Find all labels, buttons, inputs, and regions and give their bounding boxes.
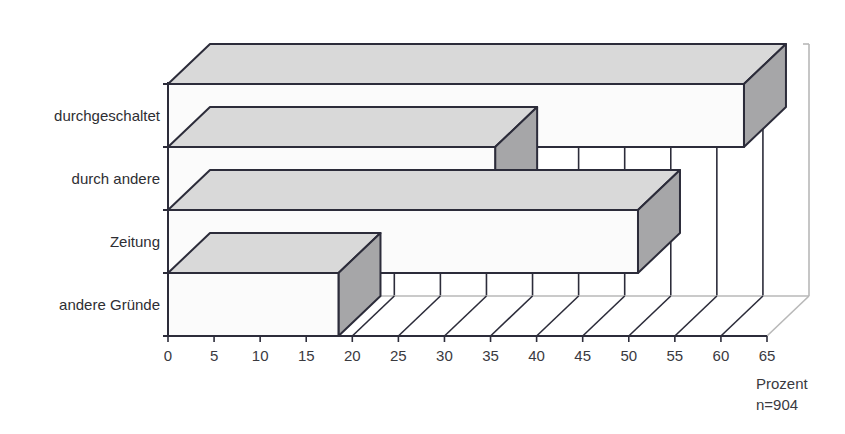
x-tick-label: 20 bbox=[344, 347, 361, 364]
floor-gridline bbox=[537, 296, 579, 336]
bar-series bbox=[168, 44, 786, 336]
x-tick-label: 50 bbox=[620, 347, 637, 364]
x-tick-label: 15 bbox=[298, 347, 315, 364]
category-label: Zeitung bbox=[110, 233, 160, 250]
x-tick-label: 0 bbox=[164, 347, 172, 364]
x-tick-label: 25 bbox=[390, 347, 407, 364]
x-tick-label: 30 bbox=[436, 347, 453, 364]
floor-gridline bbox=[675, 296, 717, 336]
bar-front-face bbox=[168, 273, 338, 336]
x-tick-label: 45 bbox=[574, 347, 591, 364]
floor-gridline bbox=[583, 296, 625, 336]
x-tick-label: 60 bbox=[713, 347, 730, 364]
x-axis-title: Prozent bbox=[756, 375, 809, 392]
bar-top-face bbox=[168, 44, 786, 84]
floor-gridline bbox=[398, 296, 440, 336]
floor-gridline bbox=[491, 296, 533, 336]
category-label: andere Gründe bbox=[59, 296, 160, 313]
floor-gridline bbox=[629, 296, 671, 336]
category-labels: durchgeschaltetdurch andereZeitungandere… bbox=[54, 107, 161, 313]
floor-gridline bbox=[444, 296, 486, 336]
x-tick-label: 40 bbox=[528, 347, 545, 364]
category-label: durchgeschaltet bbox=[54, 107, 161, 124]
bar-top-face bbox=[168, 107, 537, 147]
x-tick-label: 65 bbox=[759, 347, 776, 364]
bar-top-face bbox=[168, 170, 680, 210]
x-tick-label: 10 bbox=[252, 347, 269, 364]
x-tick-label: 5 bbox=[210, 347, 218, 364]
floor-gridline bbox=[767, 296, 809, 336]
bar bbox=[168, 233, 380, 336]
x-tick-label: 55 bbox=[667, 347, 684, 364]
floor-gridline bbox=[721, 296, 763, 336]
x-tick-label: 35 bbox=[482, 347, 499, 364]
sample-size-label: n=904 bbox=[756, 396, 798, 413]
category-label: durch andere bbox=[72, 170, 160, 187]
bar-chart: 05101520253035404550556065 durchgeschalt… bbox=[0, 0, 845, 434]
